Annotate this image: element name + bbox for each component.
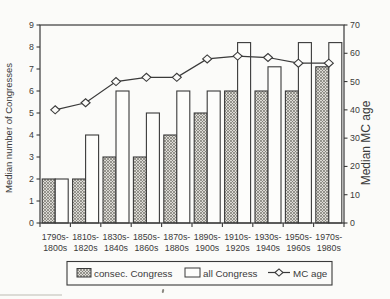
bar-consec-congress [194, 113, 207, 223]
bar-all-congress [207, 91, 220, 223]
bar-consec-congress [285, 91, 298, 223]
x-tick-label-line1: 1810s- [72, 232, 99, 242]
diamond-marker [203, 55, 212, 63]
left-axis-tick-label: 7 [29, 64, 34, 74]
bar-consec-congress [316, 67, 329, 223]
bar-all-congress [329, 43, 342, 223]
bar-consec-congress [103, 157, 116, 223]
x-tick-label-line1: 1870s- [163, 232, 190, 242]
bar-consec-congress [133, 157, 146, 223]
left-axis-tick-label: 2 [29, 174, 34, 184]
bar-consec-congress [73, 179, 86, 223]
x-tick-label-line2: 1900s [195, 243, 220, 253]
left-axis-tick-label: 8 [29, 42, 34, 52]
legend-swatch-consec [77, 269, 91, 278]
diamond-marker [142, 73, 151, 81]
x-tick-label-line2: 1860s [134, 243, 159, 253]
diamond-marker [172, 73, 181, 81]
bar-consec-congress [255, 91, 268, 223]
bar-all-congress [298, 43, 311, 223]
x-tick-label-line2: 1980s [317, 243, 342, 253]
bar-all-congress [55, 179, 68, 223]
x-tick-label-line2: 1960s [286, 243, 311, 253]
bar-all-congress [177, 91, 190, 223]
right-axis-title: Median MC age [359, 100, 373, 185]
legend-label-all: all Congress [203, 268, 258, 279]
left-axis-tick-label: 0 [29, 218, 34, 228]
x-tick-label-line1: 1970s- [315, 232, 342, 242]
x-tick-label-line2: 1940s [256, 243, 281, 253]
x-tick-label-line2: 1840s [104, 243, 129, 253]
left-axis-tick-label: 3 [29, 152, 34, 162]
bar-all-congress [238, 43, 251, 223]
left-axis-tick-label: 9 [29, 20, 34, 30]
bar-all-congress [86, 135, 99, 223]
legend-label-mc-age: MC age [293, 268, 328, 279]
right-axis-tick-label: 60 [350, 48, 360, 58]
x-tick-label-line2: 1880s [165, 243, 190, 253]
left-axis-tick-label: 5 [29, 108, 34, 118]
right-axis-tick-label: 50 [350, 77, 360, 87]
x-tick-label-line1: 1830s- [103, 232, 130, 242]
legend-swatch-all [185, 268, 200, 277]
x-tick-label-line1: 1790s- [42, 232, 69, 242]
x-tick-label-line1: 1950s- [285, 232, 312, 242]
left-axis-title: Median number of Congresses [3, 63, 14, 193]
left-axis-tick-label: 1 [29, 196, 34, 206]
bar-all-congress [146, 113, 159, 223]
scan-streak-artifact [0, 294, 62, 296]
right-axis-tick-label: 10 [350, 190, 360, 200]
congress-service-chart: 01234567890102030405060701790s-1800s1810… [0, 0, 390, 299]
x-tick-label-line1: 1910s- [224, 232, 251, 242]
bar-all-congress [268, 67, 281, 223]
diamond-marker [51, 106, 60, 114]
left-axis-tick-label: 6 [29, 86, 34, 96]
diamond-marker [264, 54, 273, 62]
bar-all-congress [116, 91, 129, 223]
legend: consec. Congressall CongressMC age [67, 262, 332, 286]
legend-label-consec: consec. Congress [94, 268, 173, 279]
bars-layer [42, 43, 342, 223]
x-tick-label-line2: 1800s [43, 243, 68, 253]
x-tick-label-line1: 1930s- [255, 232, 282, 242]
bar-consec-congress [164, 135, 177, 223]
right-axis-tick-label: 0 [350, 218, 355, 228]
x-tick-label-line1: 1890s- [194, 232, 221, 242]
chart-figure: 01234567890102030405060701790s-1800s1810… [0, 0, 390, 299]
x-tick-label-line1: 1850s- [133, 232, 160, 242]
x-tick-label-line2: 1820s [74, 243, 99, 253]
bar-consec-congress [42, 179, 55, 223]
right-axis-tick-label: 70 [350, 20, 360, 30]
bar-consec-congress [225, 91, 238, 223]
x-tick-label-line2: 1920s [226, 243, 251, 253]
left-axis-tick-label: 4 [29, 130, 34, 140]
